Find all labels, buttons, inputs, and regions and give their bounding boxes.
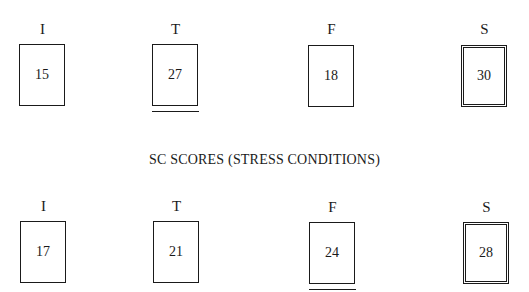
row-1-score-box-s: 30 [461,45,507,107]
row-1-score-box-f: 18 [308,45,354,107]
section-title: SC SCORES (STRESS CONDITIONS) [0,152,529,168]
row-1-label-f: F [308,21,355,37]
row-2-score-box-t: 21 [153,221,199,283]
row-1-label-s: S [461,21,508,37]
row-1-score-box-i: 15 [19,44,65,106]
row-2-label-f: F [309,199,356,215]
row-1-label-t: T [152,21,199,37]
row-2-label-i: I [20,198,67,214]
row-2-score-box-f: 24 [309,222,355,284]
row-2-label-t: T [153,198,200,214]
row-2-underline-f [309,289,356,290]
row-2-score-box-s: 28 [463,222,509,284]
row-1-label-i: I [19,21,66,37]
row-2-score-box-i: 17 [20,221,66,283]
row-1-score-box-t: 27 [152,44,198,106]
row-2-label-s: S [463,199,510,215]
row-1-underline-t [152,111,199,112]
